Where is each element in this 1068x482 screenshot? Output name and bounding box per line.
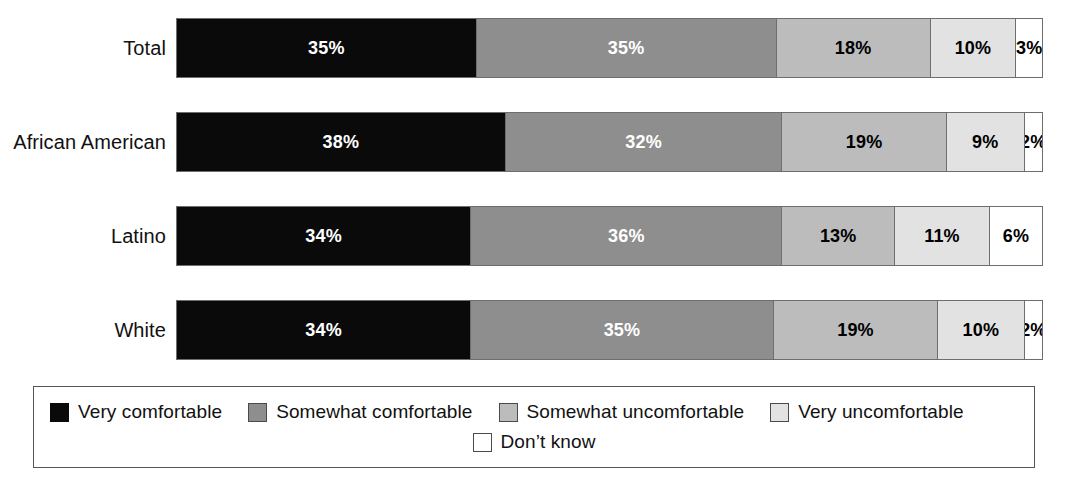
bar-row-label: African American <box>0 131 176 154</box>
legend-swatch-icon <box>499 403 518 422</box>
bar-row: Total35%35%18%10%3% <box>0 18 1068 78</box>
bar-row: White34%35%19%10%2% <box>0 300 1068 360</box>
bar-segment-value: 10% <box>955 38 992 59</box>
bar-segment-value: 35% <box>604 320 641 341</box>
bar-segment: 35% <box>177 19 477 77</box>
bar-segment: 10% <box>938 301 1025 359</box>
bar-segment-value: 38% <box>323 132 360 153</box>
bar-segment-value: 19% <box>846 132 883 153</box>
bar-track: 35%35%18%10%3% <box>176 18 1043 78</box>
legend-swatch-icon <box>473 433 492 452</box>
bar-segment: 2% <box>1025 301 1042 359</box>
bar-track: 38%32%19%9%2% <box>176 112 1043 172</box>
bar-segment-value: 11% <box>924 226 960 247</box>
bar-segment: 35% <box>477 19 777 77</box>
legend-label: Somewhat uncomfortable <box>527 401 745 423</box>
bar-segment-value: 32% <box>625 132 662 153</box>
bar-segment: 13% <box>782 207 894 265</box>
bar-segment-value: 34% <box>305 226 342 247</box>
bar-segment: 35% <box>471 301 774 359</box>
bar-segment-value: 35% <box>308 38 345 59</box>
bar-segment: 19% <box>774 301 938 359</box>
legend-label: Very uncomfortable <box>798 401 964 423</box>
bar-segment-value: 34% <box>305 320 342 341</box>
bar-row: African American38%32%19%9%2% <box>0 112 1068 172</box>
bar-track: 34%35%19%10%2% <box>176 300 1043 360</box>
bar-segment: 38% <box>177 113 506 171</box>
bar-segment: 6% <box>990 207 1042 265</box>
bar-row-label: White <box>0 319 176 342</box>
bar-segment: 9% <box>947 113 1025 171</box>
legend-line-2: Don’t know <box>34 431 1034 453</box>
bar-segment-value: 19% <box>837 320 874 341</box>
bar-segment-value: 18% <box>835 38 872 59</box>
bar-segment-value: 13% <box>820 226 857 247</box>
bar-segment-value: 3% <box>1016 38 1042 59</box>
bar-segment: 3% <box>1016 19 1042 77</box>
bar-segment: 11% <box>895 207 990 265</box>
bar-segment-value: 35% <box>608 38 645 59</box>
legend-item[interactable]: Very comfortable <box>50 401 222 423</box>
chart-legend: Very comfortableSomewhat comfortableSome… <box>33 386 1035 468</box>
legend-swatch-icon <box>248 403 267 422</box>
bar-segment-value: 36% <box>608 226 645 247</box>
legend-label: Somewhat comfortable <box>276 401 472 423</box>
bar-row-label: Total <box>0 37 176 60</box>
bar-segment-value: 10% <box>963 320 1000 341</box>
stacked-bar-chart: Total35%35%18%10%3%African American38%32… <box>0 0 1068 482</box>
bar-segment: 34% <box>177 207 471 265</box>
legend-line-1: Very comfortableSomewhat comfortableSome… <box>34 401 1034 423</box>
legend-swatch-icon <box>50 403 69 422</box>
bar-segment: 32% <box>506 113 783 171</box>
legend-item[interactable]: Somewhat uncomfortable <box>499 401 745 423</box>
bar-segment-value: 2% <box>1025 320 1042 341</box>
bar-row: Latino34%36%13%11%6% <box>0 206 1068 266</box>
bar-segment: 18% <box>777 19 931 77</box>
bar-row-label: Latino <box>0 225 176 248</box>
bar-segment-value: 2% <box>1025 132 1042 153</box>
chart-plot-area: Total35%35%18%10%3%African American38%32… <box>0 0 1068 375</box>
bar-segment-value: 6% <box>1003 226 1029 247</box>
legend-item[interactable]: Don’t know <box>473 431 596 453</box>
legend-label: Very comfortable <box>78 401 222 423</box>
bar-track: 34%36%13%11%6% <box>176 206 1043 266</box>
legend-swatch-icon <box>770 403 789 422</box>
legend-item[interactable]: Very uncomfortable <box>770 401 964 423</box>
bar-segment: 10% <box>931 19 1017 77</box>
legend-label: Don’t know <box>501 431 596 453</box>
bar-segment: 19% <box>782 113 946 171</box>
bar-segment: 2% <box>1025 113 1042 171</box>
legend-item[interactable]: Somewhat comfortable <box>248 401 472 423</box>
bar-segment-value: 9% <box>972 132 998 153</box>
bar-segment: 36% <box>471 207 782 265</box>
bar-segment: 34% <box>177 301 471 359</box>
